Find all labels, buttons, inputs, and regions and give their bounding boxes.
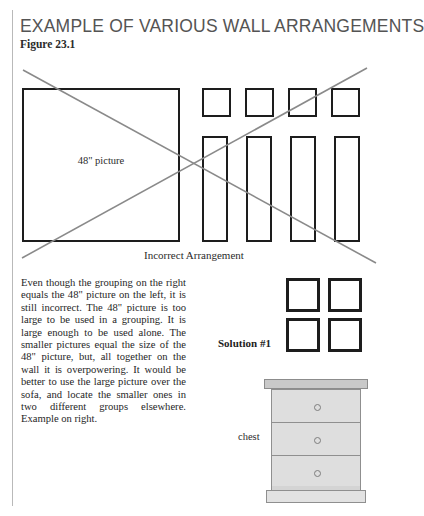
solution-square-frame	[286, 278, 320, 312]
small-square-frame	[245, 88, 274, 117]
tall-rectangle-frame	[334, 136, 360, 242]
large-picture-label: 48" picture	[22, 155, 180, 166]
incorrect-arrangement-caption: Incorrect Arrangement	[144, 249, 244, 261]
chest-top-surface	[264, 379, 368, 389]
solution-label: Solution #1	[218, 337, 271, 349]
chest-drawer	[272, 390, 360, 423]
chest-label: chest	[238, 431, 260, 442]
solution-square-frame	[328, 318, 362, 352]
drawer-knob-icon	[314, 437, 321, 444]
drawer-knob-icon	[314, 470, 321, 477]
tall-rectangle-frame	[290, 136, 316, 242]
explanation-paragraph: Even though the grouping on the right eq…	[21, 277, 186, 426]
incorrect-arrangement-diagram: 48" picture Incorrect Arrangement	[0, 0, 403, 270]
solution-square-frame	[328, 278, 362, 312]
tall-rectangle-frame	[202, 136, 228, 242]
small-square-frame	[288, 88, 317, 117]
small-square-frame	[202, 88, 231, 117]
chest-drawer	[272, 423, 360, 456]
chest-body	[271, 389, 361, 490]
drawer-knob-icon	[314, 404, 321, 411]
chest-drawer	[272, 456, 360, 489]
small-square-frame	[331, 88, 360, 117]
solution-square-frame	[286, 318, 320, 352]
chest-base	[266, 490, 366, 503]
tall-rectangle-frame	[246, 136, 272, 242]
